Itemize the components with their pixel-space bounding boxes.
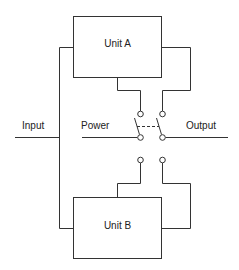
unit-b-label: Unit B (104, 220, 132, 231)
unit-a: Unit A (74, 17, 162, 78)
contact-common-1-icon (138, 135, 144, 141)
contact-a2-icon (160, 111, 166, 117)
contact-a1-icon (138, 111, 144, 117)
output-label: Output (186, 120, 216, 131)
unit-a-label: Unit A (104, 38, 131, 49)
unit-b: Unit B (74, 198, 162, 259)
contact-b1-icon (138, 157, 144, 163)
unit-b-to-contact-1-wire (118, 163, 141, 198)
input-bus-wire (60, 48, 74, 229)
contact-common-2-icon (160, 135, 166, 141)
contact-b2-icon (160, 157, 166, 163)
transfer-switch (135, 111, 166, 163)
unit-a-to-contact-1-wire (118, 78, 141, 112)
unit-a-to-contact-2-wire (162, 48, 191, 112)
power-label: Power (81, 120, 110, 131)
input-label: Input (22, 120, 44, 131)
redundant-power-diagram: Unit A Unit B Input Power Output (0, 0, 239, 270)
unit-b-to-contact-2-wire (162, 163, 191, 229)
